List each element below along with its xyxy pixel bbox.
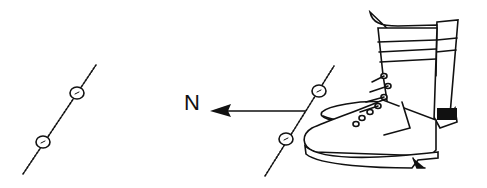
boots-icon [304, 12, 458, 168]
north-arrow-icon [210, 104, 305, 117]
diagram-canvas: N [0, 0, 487, 188]
north-label: N [184, 92, 200, 114]
diagram-drawing [0, 0, 487, 188]
left-line-icon [23, 65, 96, 174]
